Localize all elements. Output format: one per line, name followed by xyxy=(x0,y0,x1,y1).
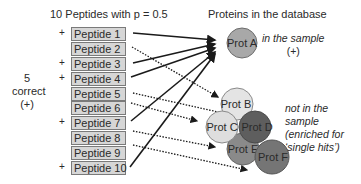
peptide-box: Peptide 6 xyxy=(71,101,126,115)
svg-text:Prot D: Prot D xyxy=(241,121,272,133)
peptide-box: Peptide 4 xyxy=(71,72,126,86)
correct-marker: + xyxy=(59,161,65,173)
peptide-box: Peptide 8 xyxy=(71,131,126,145)
peptide-box: Peptide 9 xyxy=(71,146,126,160)
correct-marker: + xyxy=(59,116,65,128)
correct-marker: + xyxy=(59,72,65,84)
peptide-box: Peptide 7 xyxy=(71,116,126,130)
svg-text:Prot F: Prot F xyxy=(258,151,288,163)
peptide-box: Peptide 5 xyxy=(71,87,126,101)
note-line: sample xyxy=(285,115,344,128)
correct-marker: + xyxy=(59,57,65,69)
in-sample-note: in the sample (+) xyxy=(262,32,324,58)
svg-text:Prot E: Prot E xyxy=(228,143,259,155)
not-in-sample-note: not in the sample (enriched for ‘single … xyxy=(285,102,344,154)
correct-marker: + xyxy=(59,27,65,39)
protein-c: Prot C xyxy=(206,111,238,143)
in-sample-text: in the sample xyxy=(262,32,324,45)
connection-arrows: Prot A Prot B Prot E Prot D Prot C Prot … xyxy=(0,0,361,184)
svg-text:Prot C: Prot C xyxy=(206,121,237,133)
protein-a: Prot A xyxy=(227,28,258,58)
protein-d: Prot D xyxy=(239,111,273,143)
protein-f: Prot F xyxy=(255,140,289,174)
peptide-box: Peptide 10 xyxy=(71,161,126,175)
svg-text:Prot B: Prot B xyxy=(221,98,252,110)
peptide-box: Peptide 1 xyxy=(71,27,126,41)
note-line: ‘single hits’) xyxy=(285,141,344,154)
svg-text:Prot A: Prot A xyxy=(227,37,258,49)
peptide-box: Peptide 3 xyxy=(71,57,126,71)
note-line: (enriched for xyxy=(285,128,344,141)
note-line: not in the xyxy=(285,102,344,115)
peptide-box: Peptide 2 xyxy=(71,42,126,56)
in-sample-sign: (+) xyxy=(262,45,324,58)
arrow-peptide-1 xyxy=(133,33,215,40)
